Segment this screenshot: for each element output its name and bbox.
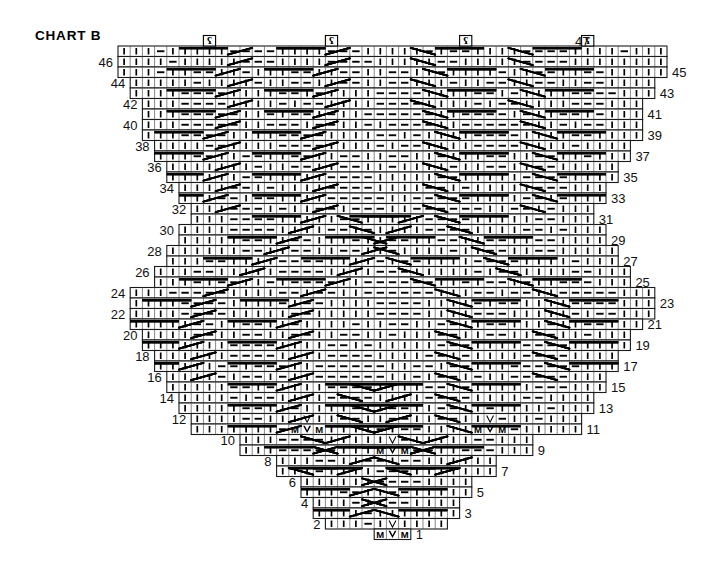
row-number-left-28: 28 — [147, 244, 161, 257]
row-number-right-39: 39 — [648, 129, 662, 142]
svg-text:M: M — [376, 529, 384, 540]
row-number-left-26: 26 — [135, 265, 149, 278]
row-number-left-20: 20 — [123, 328, 137, 341]
row-number-left-30: 30 — [160, 223, 174, 236]
row-number-right-37: 37 — [635, 150, 649, 163]
row-number-left-6: 6 — [289, 475, 296, 488]
chart-grid-svg: MMMMMMMMʕʕʕʕ — [0, 0, 727, 586]
row-number-right-21: 21 — [648, 318, 662, 331]
svg-text:M: M — [315, 424, 323, 435]
knitting-chart-b: MMMMMMMMʕʕʕʕ 464442403836343230282624222… — [0, 0, 727, 586]
row-number-left-44: 44 — [111, 76, 125, 89]
row-number-left-12: 12 — [172, 412, 186, 425]
row-number-right-3: 3 — [465, 507, 472, 520]
row-number-left-14: 14 — [160, 391, 174, 404]
svg-text:ʕ: ʕ — [329, 34, 334, 46]
row-number-left-16: 16 — [147, 370, 161, 383]
row-number-left-22: 22 — [111, 307, 125, 320]
row-number-left-4: 4 — [301, 496, 308, 509]
row-number-left-46: 46 — [99, 55, 113, 68]
row-number-left-2: 2 — [313, 517, 320, 530]
row-number-right-47: 47 — [575, 34, 589, 47]
row-number-right-11: 11 — [587, 423, 601, 436]
row-number-right-41: 41 — [648, 108, 662, 121]
row-number-left-18: 18 — [135, 349, 149, 362]
row-number-right-45: 45 — [672, 66, 686, 79]
row-number-right-33: 33 — [611, 192, 625, 205]
svg-text:M: M — [291, 424, 299, 435]
row-number-right-31: 31 — [599, 213, 613, 226]
row-number-right-23: 23 — [660, 297, 674, 310]
row-number-right-9: 9 — [538, 444, 545, 457]
row-number-left-10: 10 — [221, 433, 235, 446]
row-number-left-38: 38 — [135, 139, 149, 152]
row-number-left-36: 36 — [147, 160, 161, 173]
svg-text:ʕ: ʕ — [463, 34, 468, 46]
row-number-left-32: 32 — [172, 202, 186, 215]
row-number-right-29: 29 — [611, 234, 625, 247]
row-number-right-25: 25 — [635, 276, 649, 289]
row-number-right-15: 15 — [611, 381, 625, 394]
row-number-right-13: 13 — [599, 402, 613, 415]
row-number-right-35: 35 — [623, 171, 637, 184]
row-number-right-7: 7 — [501, 465, 508, 478]
row-number-right-19: 19 — [635, 339, 649, 352]
row-number-right-5: 5 — [477, 486, 484, 499]
row-number-right-27: 27 — [623, 255, 637, 268]
row-number-left-42: 42 — [123, 97, 137, 110]
row-number-right-1: 1 — [416, 528, 423, 541]
row-number-right-17: 17 — [623, 360, 637, 373]
svg-text:ʕ: ʕ — [207, 34, 212, 46]
row-number-left-24: 24 — [111, 286, 125, 299]
row-number-left-8: 8 — [264, 454, 271, 467]
row-number-left-40: 40 — [123, 118, 137, 131]
svg-text:M: M — [401, 529, 409, 540]
row-number-right-43: 43 — [660, 87, 674, 100]
row-number-left-34: 34 — [160, 181, 174, 194]
